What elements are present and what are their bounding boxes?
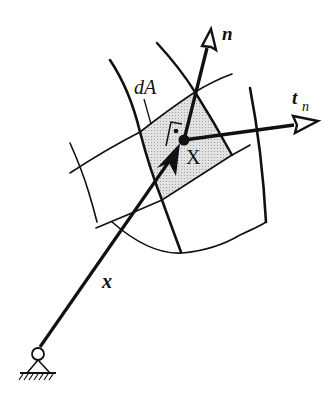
pin-support-icon	[19, 348, 56, 380]
label-traction-t: t	[292, 87, 298, 108]
label-traction-subscript: n	[302, 99, 309, 114]
position-vector-x	[40, 143, 180, 347]
material-point-dot	[179, 135, 190, 146]
label-normal-n: n	[222, 23, 233, 44]
label-position-x: x	[101, 270, 112, 292]
label-point-X: X	[186, 146, 201, 168]
label-area-element: dA	[134, 76, 157, 98]
diagram-canvas: n t n dA X x	[0, 0, 330, 396]
area-element-leader	[144, 99, 151, 124]
right-angle-dot	[174, 129, 179, 134]
